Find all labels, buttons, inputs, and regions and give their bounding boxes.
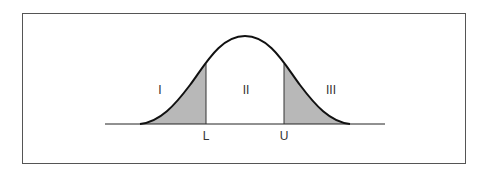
lower-limit-label: L xyxy=(203,129,210,143)
region-ii-label: II xyxy=(243,83,250,97)
upper-limit-label: U xyxy=(280,129,289,143)
region-iii-shading xyxy=(284,64,350,124)
region-i-label: I xyxy=(158,83,161,97)
region-iii-label: III xyxy=(326,83,336,97)
region-i-shading xyxy=(140,64,206,124)
